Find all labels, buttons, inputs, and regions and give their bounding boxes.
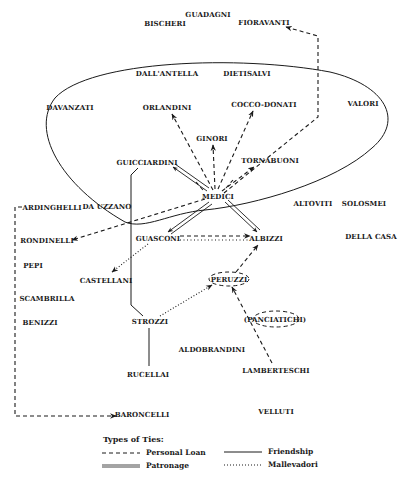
node-solosmei: SOLOSMEI [342, 199, 386, 208]
node-panciatichi: (PANCIATICHI) [244, 315, 306, 324]
node-rucellai: RUCELLAI [127, 370, 169, 379]
node-scambrilla: SCAMBRILLA [19, 294, 74, 303]
node-castellani: CASTELLANI [80, 276, 133, 285]
node-pepi: PEPI [23, 261, 43, 270]
legend-title: Types of Ties: [103, 434, 164, 444]
node-ardinghelli: ARDINGHELLI [22, 203, 81, 212]
node-peruzzi: PERUZZI [211, 275, 248, 284]
node-tornabuoni: TORNABUONI [241, 156, 299, 165]
legend-patronage: Patronage [146, 461, 189, 470]
node-della-casa: DELLA CASA [345, 232, 397, 241]
legend-personal-loan: Personal Loan [146, 448, 206, 457]
node-aldobrandini: ALDOBRANDINI [179, 345, 245, 354]
legend-friendship: Friendship [268, 447, 313, 456]
node-benizzi: BENIZZI [22, 318, 57, 327]
node-strozzi: STROZZI [132, 317, 168, 326]
node-baroncelli: BARONCELLI [115, 410, 170, 419]
node-cocco-donati: COCCO-DONATI [231, 100, 296, 109]
node-dietisalvi: DIETISALVI [223, 69, 270, 78]
edges-friendship [131, 168, 149, 366]
node-guadagni: GUADAGNI [185, 10, 230, 19]
node-dallantella: DALL'ANTELLA [136, 69, 198, 78]
node-bischeri: BISCHERI [144, 19, 186, 28]
node-davanzati: DAVANZATI [46, 103, 93, 112]
node-albizzi: ALBIZZI [249, 234, 283, 243]
node-guicciardini: GUICCIARDINI [116, 158, 177, 167]
node-fioravanti: FIORAVANTI [238, 18, 289, 27]
node-orlandini: ORLANDINI [143, 103, 192, 112]
node-rondinelli: RONDINELLI [20, 236, 74, 245]
network-diagram: BISCHERI GUADAGNI FIORAVANTI DALL'ANTELL… [0, 0, 410, 479]
edges-personal-loan [15, 27, 318, 416]
node-altoviti: ALTOVITI [294, 199, 333, 208]
node-medici: MEDICI [202, 192, 234, 201]
node-da-uzzano: DA UZZANO [82, 202, 131, 211]
node-ginori: GINORI [196, 134, 227, 143]
node-velluti: VELLUTI [258, 407, 294, 416]
legend-mallevadori: Mallevadori [268, 460, 318, 469]
node-valori: VALORI [347, 99, 378, 108]
node-guasconi: GUASCONI [136, 234, 181, 243]
node-lamberteschi: LAMBERTESCHI [242, 366, 309, 375]
